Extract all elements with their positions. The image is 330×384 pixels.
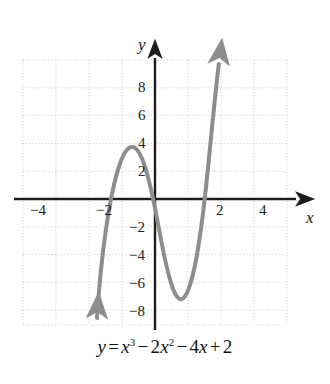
x-axis-label: x [306, 209, 314, 226]
figure-container: y x −4 −2 2 4 8 6 4 2 −2 −4 −6 −8 y=x3−2… [0, 0, 330, 384]
equation-term3-var: x [199, 336, 208, 357]
equation-caption: y=x3−2x2−4x+2 [0, 336, 330, 358]
equation-term3-coefficient: 4 [189, 336, 199, 357]
equation-term2-var: x [160, 336, 169, 357]
equation-minus-2: − [174, 336, 189, 357]
y-tick-4: 4 [138, 136, 146, 151]
y-axis-label: y [138, 36, 146, 53]
y-tick-minus-8: −8 [129, 304, 145, 319]
x-tick-2: 2 [216, 203, 224, 218]
x-tick-minus-4: −4 [30, 203, 46, 218]
cubic-function-graph-verified [0, 0, 330, 384]
x-tick-4: 4 [259, 203, 267, 218]
y-tick-2: 2 [138, 164, 146, 179]
equation-constant: 2 [223, 336, 233, 357]
equation-equals: = [106, 336, 121, 357]
y-tick-minus-6: −6 [129, 276, 145, 291]
equation-lhs: y [98, 336, 107, 357]
x-tick-minus-2: −2 [96, 203, 112, 218]
equation-minus-1: − [136, 336, 151, 357]
y-tick-minus-2: −2 [129, 220, 145, 235]
y-tick-6: 6 [138, 108, 146, 123]
verified-bg [0, 0, 330, 384]
equation-term1-var: x [121, 336, 130, 357]
equation-plus: + [208, 336, 223, 357]
equation-term1-exponent: 3 [130, 336, 136, 348]
y-tick-minus-4: −4 [129, 248, 145, 263]
y-tick-8: 8 [138, 80, 146, 95]
equation-term2-coefficient: 2 [150, 336, 160, 357]
